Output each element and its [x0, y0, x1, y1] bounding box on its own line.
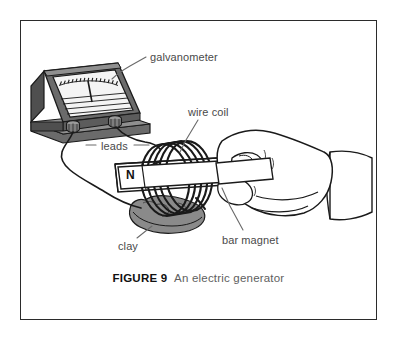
- label-magnet-north-pole: N: [126, 168, 135, 182]
- terminal-left: [67, 121, 80, 133]
- caption-lead: FIGURE: [113, 272, 158, 284]
- terminal-right: [109, 116, 122, 128]
- caption-text: An electric generator: [174, 272, 284, 284]
- label-clay: clay: [118, 240, 138, 252]
- bar-magnet-tip-overlay: [216, 158, 273, 184]
- galvanometer-device: [31, 63, 150, 143]
- label-galvanometer: galvanometer: [150, 51, 218, 63]
- label-wire-coil: wire coil: [188, 106, 229, 118]
- label-leads: leads: [101, 140, 128, 152]
- figure-illustration: galvanometer wire coil leads clay bar ma…: [0, 0, 397, 341]
- figure-caption: FIGURE 9 An electric generator: [20, 272, 377, 284]
- label-bar-magnet: bar magnet: [222, 234, 279, 246]
